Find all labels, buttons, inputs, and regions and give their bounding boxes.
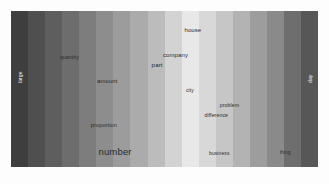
word-thing: thing	[280, 151, 291, 156]
word-company: company	[163, 52, 188, 58]
word-cloud-figure: largequantityamountproportionnumberhouse…	[0, 0, 329, 184]
word-layer: largequantityamountproportionnumberhouse…	[11, 11, 318, 167]
word-proportion: proportion	[91, 123, 117, 129]
word-part: part	[152, 62, 163, 68]
word-quantity: quantity	[60, 55, 79, 60]
word-number: number	[98, 147, 131, 157]
word-problem: problem	[220, 103, 239, 108]
word-house: house	[184, 27, 201, 33]
banded-word-panel: largequantityamountproportionnumberhouse…	[11, 11, 318, 167]
word-amount: amount	[97, 78, 118, 84]
word-difference: difference	[204, 113, 228, 118]
word-business: business	[209, 151, 230, 156]
word-large: large	[18, 71, 23, 83]
word-city: city	[186, 88, 194, 93]
word-day: day	[308, 74, 313, 82]
